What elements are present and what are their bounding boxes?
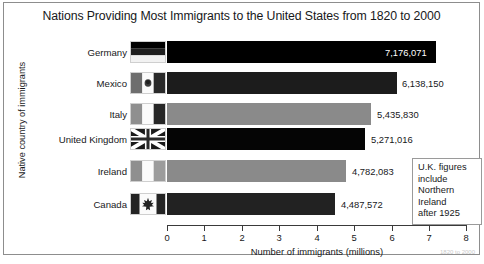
bar-value-italy: 5,435,830 bbox=[377, 108, 419, 119]
annotation-line-3: Northern bbox=[418, 185, 477, 197]
bar-canada bbox=[167, 193, 335, 215]
x-tick-label-4: 4 bbox=[314, 232, 319, 243]
flag-united-kingdom-icon bbox=[130, 128, 166, 150]
bar-row-ireland: Ireland 4,782,083 bbox=[4, 158, 479, 183]
flag-italy-icon bbox=[130, 103, 166, 125]
bar-row-canada: Canada 4,487,572 bbox=[4, 191, 479, 216]
flag-mexico-icon bbox=[130, 72, 166, 94]
bar-ireland bbox=[167, 160, 346, 182]
annotation-line-4: Ireland bbox=[418, 197, 477, 209]
bar-row-germany: Germany 7,176,071 bbox=[4, 39, 479, 64]
bar-italy bbox=[167, 103, 371, 125]
bar-mexico bbox=[167, 72, 397, 94]
bar-value-germany: 7,176,071 bbox=[385, 46, 427, 57]
x-tick-label-8: 8 bbox=[463, 232, 468, 243]
x-tick-7 bbox=[429, 225, 430, 231]
bar-row-united-kingdom: United Kingdom 5,271,016 bbox=[4, 126, 479, 151]
chart-figure: Nations Providing Most Immigrants to the… bbox=[3, 2, 480, 255]
category-label-canada: Canada bbox=[93, 198, 127, 209]
source-footnote: 1820 to 2000 bbox=[4, 249, 479, 255]
bar-value-ireland: 4,782,083 bbox=[352, 165, 394, 176]
bar-row-italy: Italy 5,435,830 bbox=[4, 101, 479, 126]
flag-canada-icon bbox=[130, 193, 166, 215]
x-tick-0 bbox=[167, 225, 168, 231]
annotation-line-2: include bbox=[418, 174, 477, 186]
category-label-italy: Italy bbox=[109, 108, 127, 119]
category-label-germany: Germany bbox=[88, 46, 127, 57]
x-tick-label-2: 2 bbox=[239, 232, 244, 243]
chart-title: Nations Providing Most Immigrants to the… bbox=[4, 9, 479, 23]
annotation-uk-note: U.K. figures include Northern Ireland af… bbox=[412, 158, 482, 225]
bar-united-kingdom bbox=[167, 128, 365, 150]
x-tick-label-6: 6 bbox=[389, 232, 394, 243]
x-tick-label-1: 1 bbox=[201, 232, 206, 243]
flag-germany-icon bbox=[130, 41, 166, 63]
category-label-mexico: Mexico bbox=[97, 77, 127, 88]
x-tick-2 bbox=[242, 225, 243, 231]
annotation-line-5: after 1925 bbox=[418, 208, 477, 220]
bar-value-united-kingdom: 5,271,016 bbox=[371, 133, 413, 144]
x-tick-label-3: 3 bbox=[276, 232, 281, 243]
x-tick-label-7: 7 bbox=[426, 232, 431, 243]
x-tick-8 bbox=[466, 225, 467, 231]
x-tick-6 bbox=[392, 225, 393, 231]
x-tick-label-0: 0 bbox=[164, 232, 169, 243]
bar-value-canada: 4,487,572 bbox=[341, 198, 383, 209]
category-label-united-kingdom: United Kingdom bbox=[59, 133, 127, 144]
annotation-line-1: U.K. figures bbox=[418, 162, 477, 174]
x-tick-3 bbox=[279, 225, 280, 231]
bar-row-mexico: Mexico 6,138,150 bbox=[4, 70, 479, 95]
x-tick-1 bbox=[204, 225, 205, 231]
flag-ireland-icon bbox=[130, 160, 166, 182]
x-tick-4 bbox=[317, 225, 318, 231]
x-tick-5 bbox=[354, 225, 355, 231]
category-label-ireland: Ireland bbox=[98, 165, 127, 176]
x-tick-label-5: 5 bbox=[351, 232, 356, 243]
bar-value-mexico: 6,138,150 bbox=[402, 77, 444, 88]
